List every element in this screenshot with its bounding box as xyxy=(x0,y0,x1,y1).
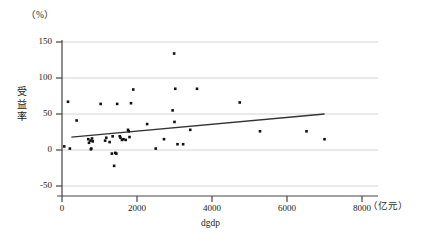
data-point xyxy=(69,147,72,150)
x-tick-marks xyxy=(62,196,362,202)
x-tick-label: 0 xyxy=(39,203,85,213)
data-point xyxy=(87,138,90,141)
y-tick-label: -50 xyxy=(18,180,52,190)
data-point xyxy=(122,138,125,141)
data-point xyxy=(124,139,127,142)
x-axis-title: dgdp xyxy=(0,218,421,228)
data-point xyxy=(105,136,108,139)
gridlines xyxy=(62,42,378,186)
data-point xyxy=(111,135,114,138)
data-point xyxy=(132,88,135,91)
y-tick-label: 50 xyxy=(18,108,52,118)
data-point xyxy=(116,103,119,106)
data-point xyxy=(90,147,93,150)
data-point xyxy=(189,129,192,132)
data-point xyxy=(305,130,308,133)
data-point xyxy=(182,143,185,146)
scatter-chart-figure: （%） 受 益 率 -50050100150 02000400060008000… xyxy=(0,0,421,244)
data-point xyxy=(176,143,179,146)
data-point xyxy=(91,137,94,140)
y-tick-marks xyxy=(56,42,62,186)
y-axis-unit-label: （%） xyxy=(26,7,54,21)
data-point xyxy=(128,136,131,139)
regression-line xyxy=(71,114,324,137)
y-tick-label: 0 xyxy=(18,144,52,154)
data-point xyxy=(154,147,157,150)
y-tick-label: 150 xyxy=(18,36,52,46)
data-point xyxy=(323,138,326,141)
data-point xyxy=(146,123,149,126)
data-point xyxy=(113,165,116,168)
data-point xyxy=(115,152,118,155)
data-point xyxy=(238,101,241,104)
data-point xyxy=(173,121,176,124)
data-point xyxy=(99,103,102,106)
data-point xyxy=(196,88,199,91)
x-tick-label: 4000 xyxy=(189,203,235,213)
data-point xyxy=(174,88,177,91)
data-point xyxy=(91,140,94,143)
x-axis-unit-label: （亿元） xyxy=(368,198,408,212)
data-point xyxy=(108,141,111,144)
data-point xyxy=(67,100,70,103)
data-point xyxy=(163,138,166,141)
data-point xyxy=(173,52,176,55)
data-point xyxy=(111,152,114,155)
data-point xyxy=(259,130,262,133)
data-point xyxy=(63,145,66,148)
data-point xyxy=(130,102,133,105)
regression-line-segment xyxy=(71,114,324,137)
axis-lines xyxy=(57,40,378,196)
data-point xyxy=(171,109,174,112)
x-tick-label: 2000 xyxy=(114,203,160,213)
x-tick-label: 6000 xyxy=(264,203,310,213)
y-tick-label: 100 xyxy=(18,72,52,82)
data-point xyxy=(104,139,107,142)
data-point xyxy=(75,119,78,122)
data-point xyxy=(127,130,130,133)
